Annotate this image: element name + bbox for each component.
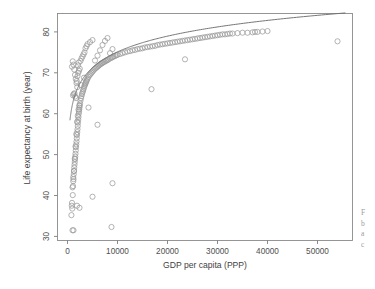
data-point (240, 30, 245, 35)
x-tick-label: 20000 (156, 247, 179, 256)
data-points (69, 28, 340, 232)
y-tick-label: 50 (42, 150, 51, 160)
data-point (260, 29, 265, 34)
x-axis-ticks (68, 241, 318, 245)
y-tick-label: 70 (42, 68, 51, 78)
data-point (245, 30, 250, 35)
data-point (92, 58, 97, 63)
caption-line-3: a (361, 229, 375, 240)
fit-curve (70, 13, 345, 120)
y-tick-labels: 304050607080 (42, 27, 51, 241)
data-point (235, 31, 240, 36)
data-point (110, 181, 115, 186)
data-point (109, 224, 114, 229)
data-point (70, 193, 75, 198)
data-point (95, 122, 100, 127)
data-point (110, 46, 115, 51)
y-tick-label: 80 (42, 27, 51, 37)
x-tick-label: 40000 (256, 247, 279, 256)
y-tick-label: 60 (42, 109, 51, 119)
data-point (71, 168, 76, 173)
data-point (97, 48, 102, 53)
y-axis-title: Life expectancy at birth (year) (22, 71, 32, 184)
x-tick-label: 50000 (306, 247, 329, 256)
x-tick-labels: 01000020000300004000050000 (65, 247, 329, 256)
caption-line-4: c (361, 240, 375, 251)
y-tick-label: 40 (42, 191, 51, 201)
data-point (335, 39, 340, 44)
data-point (149, 87, 154, 92)
data-point (86, 105, 91, 110)
caption-fragment: F b a c (361, 208, 375, 250)
x-tick-label: 10000 (106, 247, 129, 256)
data-point (182, 57, 187, 62)
data-point (95, 53, 100, 58)
data-point (69, 213, 74, 218)
plot-canvas: 01000020000300004000050000 304050607080 … (0, 0, 375, 289)
y-tick-label: 30 (42, 231, 51, 241)
x-tick-label: 30000 (206, 247, 229, 256)
data-point (90, 194, 95, 199)
x-tick-label: 0 (65, 247, 70, 256)
caption-line-1: F (361, 208, 375, 219)
caption-line-2: b (361, 219, 375, 230)
y-axis-ticks (54, 32, 58, 237)
scatter-plot-figure: 01000020000300004000050000 304050607080 … (0, 0, 375, 289)
x-axis-title: GDP per capita (PPP) (163, 260, 247, 270)
regression-curve (70, 13, 345, 120)
data-point (265, 28, 270, 33)
